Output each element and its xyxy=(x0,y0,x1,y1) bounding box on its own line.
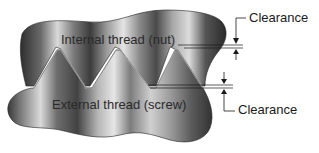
clearance-bottom-label: Clearance xyxy=(238,103,297,116)
clearance-top-arrow-down-icon xyxy=(233,38,239,44)
clearance-top-leader xyxy=(236,18,246,41)
external-thread-label: External thread (screw) xyxy=(52,98,186,111)
clearance-top-arrow-up-icon xyxy=(233,49,239,54)
clearance-top-label: Clearance xyxy=(249,11,308,24)
clearance-bottom-arrow-down-icon xyxy=(221,79,227,84)
clearance-bottom-leader xyxy=(224,92,235,111)
internal-thread-label: Internal thread (nut) xyxy=(61,33,175,46)
